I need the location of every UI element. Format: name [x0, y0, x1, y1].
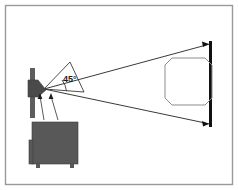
cabinet-side-panel — [29, 140, 33, 164]
equipment-cabinet — [32, 122, 78, 164]
cabinet-leg-right — [70, 164, 74, 168]
cabinet-leg-left — [36, 164, 40, 168]
projector-diagram-figure: 45° — [0, 0, 238, 190]
diagram-canvas: 45° — [0, 0, 238, 190]
angle-label: 45° — [63, 74, 77, 84]
